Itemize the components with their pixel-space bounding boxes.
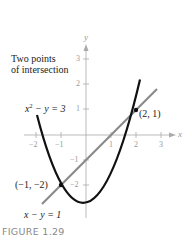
x-tick-neg2: −2 <box>29 140 38 149</box>
figure-caption: FIGURE 1.29 <box>2 226 65 237</box>
point-label-lower: (−1, −2) <box>15 179 48 190</box>
annotation-line-1: Two points <box>11 53 68 64</box>
x-tick-neg1: −1 <box>55 140 64 149</box>
y-tick-3: 3 <box>76 54 80 63</box>
x-tick-1: 1 <box>109 140 113 149</box>
parabola-equation-label: x2 − y = 3 <box>25 103 65 114</box>
annotation-line-2: of intersection <box>11 64 68 75</box>
line-equation-label: x − y = 1 <box>24 209 61 220</box>
intersection-point-lower <box>59 183 63 187</box>
y-tick-2: 2 <box>76 79 80 88</box>
y-tick-1: 1 <box>76 104 80 113</box>
y-axis-label: y <box>84 32 88 42</box>
x-tick-3: 3 <box>159 140 163 149</box>
parabola-rest: − y = 3 <box>32 103 65 114</box>
y-axis-arrow-icon <box>84 44 89 51</box>
tick-marks <box>36 59 161 185</box>
y-tick-neg2: −2 <box>70 180 79 189</box>
annotation-two-points: Two points of intersection <box>11 53 68 75</box>
x-axis-arrow-icon <box>169 133 176 138</box>
parabola-x2-minus-y-equals-3 <box>37 79 140 202</box>
x-axis-label: x <box>178 129 182 139</box>
point-label-upper: (2, 1) <box>139 108 161 119</box>
y-tick-neg1: −1 <box>70 155 79 164</box>
intersection-point-upper <box>134 108 138 112</box>
x-tick-2: 2 <box>134 140 138 149</box>
